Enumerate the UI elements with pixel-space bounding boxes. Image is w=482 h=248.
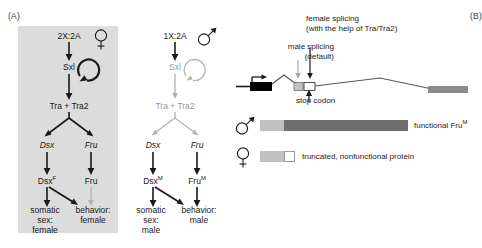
female-splicing-annotation: female splicing (with the help of Tra/Tr… — [306, 14, 397, 33]
female-protein-bar-nterm — [260, 151, 284, 162]
exon-alt-gray — [294, 83, 303, 91]
female-somatic-line3: female — [0, 225, 98, 235]
fruitless-gene-diagram — [232, 34, 472, 102]
intron-2-splice-line — [315, 78, 437, 90]
female-chromosome-ratio: 2X:2A — [16, 31, 122, 41]
female-tra-node: Tra + Tra2 — [16, 101, 122, 111]
male-protein-symbol-icon — [234, 115, 256, 137]
exon-terminal-gray — [428, 86, 468, 93]
male-fru-protein-text: Fru — [188, 176, 201, 186]
intron-1-splice-line — [272, 75, 296, 84]
exon-first-black — [250, 82, 272, 91]
panel-b-fruitless-splicing: (B) female splicing (with the help of Tr… — [232, 0, 472, 248]
arrow-sxl-to-tra-male-inactive — [165, 74, 185, 102]
arrow-fru-gene-to-protein-male — [187, 152, 207, 177]
branch-tra-to-dsx-fru — [40, 112, 98, 140]
female-fru-protein-text: Fru — [85, 176, 98, 186]
male-protein-bar-body — [284, 120, 408, 131]
male-fru-protein-sup: M — [201, 175, 206, 181]
female-protein-bar-truncated — [284, 151, 295, 162]
female-splicing-line2: (with the help of Tra/Tra2) — [306, 24, 397, 34]
male-protein-label-text: functional Fru — [414, 121, 462, 130]
male-protein-label-sup: M — [462, 119, 467, 125]
arrow-fru-gene-to-protein — [81, 152, 101, 177]
arrow-sxl-to-tra — [59, 74, 79, 102]
arrow-dsx-gene-to-protein — [37, 152, 57, 177]
exon-alt-white — [304, 83, 315, 91]
male-somatic-line3: male — [98, 225, 204, 235]
arrow-dsx-gene-to-protein-male — [143, 152, 163, 177]
female-splicing-pointer-icon — [307, 48, 313, 79]
male-protein-bar-nterm — [260, 120, 284, 131]
male-protein-label: functional FruM — [414, 121, 467, 130]
female-protein-symbol-icon — [234, 146, 252, 170]
male-cascade-column: 1X:2A Sxl Tra + Tra2 Dsx Fru — [122, 0, 228, 248]
female-protein-label: truncated, nonfunctional protein — [302, 152, 414, 161]
panel-b-label: (B) — [470, 11, 482, 21]
female-splicing-line1: female splicing — [306, 14, 397, 24]
male-chromosome-ratio: 1X:2A — [122, 31, 228, 41]
stop-codon-pointer-icon — [306, 90, 312, 103]
male-splicing-pointer-icon — [295, 60, 301, 79]
male-tra-node-inactive: Tra + Tra2 — [122, 101, 228, 111]
panel-a-sex-determination-cascade: (A) 2X:2A Sxl Tra + Tra2 — [0, 0, 232, 248]
branch-tra-to-dsx-fru-male-inactive — [146, 112, 204, 140]
